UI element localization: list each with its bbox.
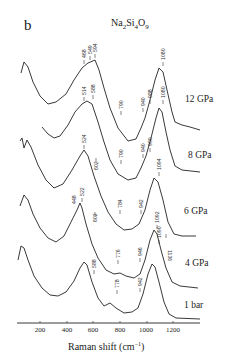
peak-1-1090: 1090	[156, 226, 162, 238]
peak-12-1080: 1080	[160, 48, 166, 60]
peak-6-1094: 1094	[156, 158, 162, 170]
peak-8-588: 588	[90, 84, 96, 93]
x-tick-800: 800	[115, 326, 126, 334]
peak-6-784: 784	[117, 199, 123, 208]
peak-1-1136: 1136	[167, 250, 173, 261]
peak-8-790: 790	[118, 149, 124, 158]
peak-6-524: 524	[81, 134, 87, 143]
spectrum-12gpa	[21, 60, 200, 141]
peak-1-778: 778	[114, 279, 120, 288]
label-4gpa: 4 GPa	[185, 258, 209, 268]
x-tick-600: 600	[88, 326, 99, 334]
label-12gpa: 12 GPa	[185, 94, 213, 104]
peak-4-1092: 1092	[154, 211, 160, 223]
peak-4-946: 946	[137, 247, 143, 256]
peak-12-940: 940	[140, 97, 146, 106]
peak-1-588: 588	[91, 259, 97, 268]
x-tick-1200: 1200	[166, 326, 180, 334]
peak-4-602: 602	[92, 213, 98, 222]
peak-8-990: 990	[147, 137, 153, 146]
x-tick-1000: 1000	[139, 326, 153, 334]
peak-1-942: 942	[137, 277, 143, 286]
peak-12-988: 988	[147, 89, 153, 98]
spectrum-4gpa	[20, 195, 198, 288]
peak-8-514: 514	[81, 86, 87, 95]
peak-4-522: 522	[79, 187, 85, 196]
x-axis-label: Raman shift (cm−1)	[68, 341, 144, 352]
peak-6-942: 942	[138, 199, 144, 208]
label-1bar: 1 bar	[184, 300, 203, 310]
peak-12-594: 594	[92, 43, 98, 52]
peak-12-790: 790	[118, 100, 124, 109]
x-tick-200: 200	[35, 326, 46, 334]
peak-8-1080: 1080	[160, 86, 166, 98]
label-6gpa: 6 GPa	[184, 206, 208, 216]
x-tick-400: 400	[62, 326, 73, 334]
peak-8-940: 940	[140, 143, 146, 152]
peak-6-602: 602	[93, 161, 99, 170]
label-8gpa: 8 GPa	[188, 150, 212, 160]
raman-figure: b Na2Si4O9 468 549	[0, 0, 225, 361]
peak-4-448: 448	[71, 195, 77, 204]
peak-4-776: 776	[115, 249, 121, 258]
